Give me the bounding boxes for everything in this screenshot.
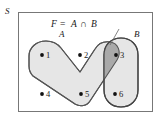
element-5-label: 5	[85, 89, 89, 99]
element-6-dot	[113, 92, 117, 96]
set-a-label: A	[58, 29, 65, 39]
element-2-label: 2	[84, 50, 88, 60]
element-5-dot	[79, 92, 83, 96]
set-b-label: B	[134, 29, 140, 39]
formula-text-b: B	[91, 19, 97, 29]
element-6-label: 6	[119, 89, 123, 99]
formula-text-a: A	[70, 19, 77, 29]
element-3-label: 3	[120, 50, 124, 60]
element-3-dot	[114, 53, 118, 57]
formula-text-f: F	[50, 19, 57, 29]
element-1-dot	[40, 53, 44, 57]
venn-diagram-figure: S F = A ∩ B A B 1 2 3 4	[0, 0, 164, 124]
element-2-dot	[78, 53, 82, 57]
element-1-label: 1	[46, 50, 50, 60]
formula-text-equals: =	[60, 19, 65, 29]
formula-text-intersection-operator: ∩	[80, 19, 87, 29]
element-4-dot	[40, 92, 44, 96]
venn-diagram-canvas: S F = A ∩ B A B 1 2 3 4	[0, 0, 164, 124]
universe-set-label: S	[5, 6, 10, 16]
